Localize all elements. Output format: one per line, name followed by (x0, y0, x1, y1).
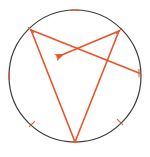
chord-layer (31, 30, 139, 142)
geometry-diagram (0, 0, 150, 157)
chord-upper-left-to-right (31, 30, 139, 73)
chord-upper-right-to-bottom (75, 31, 119, 142)
circle-layer (9, 10, 141, 142)
circumscribed-circle (9, 10, 141, 142)
geometry-canvas (0, 0, 150, 157)
chord-upper-left-to-bottom (31, 30, 75, 142)
